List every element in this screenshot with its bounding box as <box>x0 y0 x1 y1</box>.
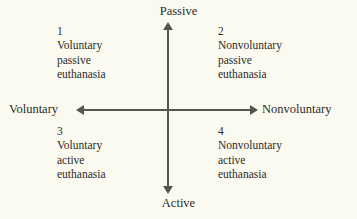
axis-label-voluntary: Voluntary <box>9 102 58 116</box>
quadrant-4-line-2: active <box>218 153 282 167</box>
quadrant-2-number: 2 <box>218 24 282 38</box>
quadrant-1-line-2: passive <box>57 53 106 67</box>
quadrant-4-line-3: euthanasia <box>218 167 282 181</box>
axis-label-active: Active <box>0 196 357 210</box>
quadrant-2-line-3: euthanasia <box>218 67 282 81</box>
vertical-axis-line <box>167 28 169 188</box>
quadrant-diagram: Passive Active Voluntary Nonvoluntary 1 … <box>0 0 357 219</box>
axis-label-nonvoluntary: Nonvoluntary <box>262 102 331 116</box>
horizontal-axis-line <box>82 109 252 111</box>
arrow-left-icon <box>76 105 84 115</box>
quadrant-1-line-1: Voluntary <box>57 38 106 52</box>
arrow-up-icon <box>163 22 173 30</box>
quadrant-1-number: 1 <box>57 24 106 38</box>
quadrant-4-number: 4 <box>218 124 282 138</box>
quadrant-1-line-3: euthanasia <box>57 67 106 81</box>
quadrant-4: 4 Nonvoluntary active euthanasia <box>218 124 282 181</box>
quadrant-4-line-1: Nonvoluntary <box>218 138 282 152</box>
quadrant-3-line-3: euthanasia <box>57 167 106 181</box>
arrow-right-icon <box>250 105 258 115</box>
quadrant-1: 1 Voluntary passive euthanasia <box>57 24 106 81</box>
arrow-down-icon <box>163 186 173 194</box>
quadrant-2-line-2: passive <box>218 53 282 67</box>
axis-label-passive: Passive <box>0 4 357 18</box>
quadrant-3-line-2: active <box>57 153 106 167</box>
quadrant-3-number: 3 <box>57 124 106 138</box>
quadrant-3: 3 Voluntary active euthanasia <box>57 124 106 181</box>
quadrant-2-line-1: Nonvoluntary <box>218 38 282 52</box>
quadrant-3-line-1: Voluntary <box>57 138 106 152</box>
quadrant-2: 2 Nonvoluntary passive euthanasia <box>218 24 282 81</box>
